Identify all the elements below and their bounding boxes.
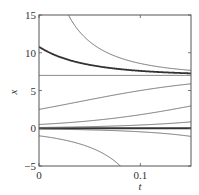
solution-curve <box>39 185 72 195</box>
solution-curve <box>39 136 168 195</box>
solution-curve <box>39 47 191 74</box>
x-axis-label: t <box>138 180 142 192</box>
solution-curve <box>39 0 191 70</box>
y-tick-label: 10 <box>25 47 37 59</box>
solution-curve <box>39 106 191 125</box>
solution-curve <box>39 129 191 136</box>
plot-frame <box>39 15 191 166</box>
solution-curve <box>39 84 191 110</box>
y-tick-label: 15 <box>25 9 37 21</box>
x-tick-label: 0 <box>36 169 42 181</box>
axis-ticks: −505101500.1 <box>24 9 191 181</box>
y-axis-label: x <box>7 89 19 95</box>
y-tick-label: 5 <box>31 85 37 97</box>
logistic-solutions-chart: −505101500.1 t x <box>0 0 199 195</box>
y-tick-label: −5 <box>24 160 36 172</box>
y-tick-label: 0 <box>31 122 37 134</box>
